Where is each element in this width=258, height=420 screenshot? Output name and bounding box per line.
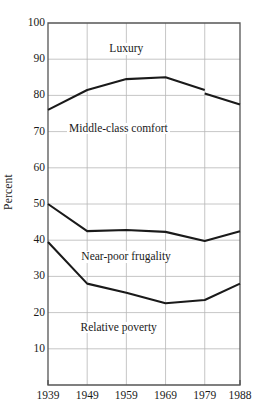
series-annotation: Relative poverty [79,322,159,334]
series-lines [48,77,240,303]
series-annotation: Luxury [107,43,145,55]
chart-container: Percent 100908070605040302010 1939194919… [0,0,258,420]
plot-area [0,0,258,420]
series-annotation: Near-poor frugality [79,251,173,263]
series-annotation: Middle-class comfort [67,123,170,135]
